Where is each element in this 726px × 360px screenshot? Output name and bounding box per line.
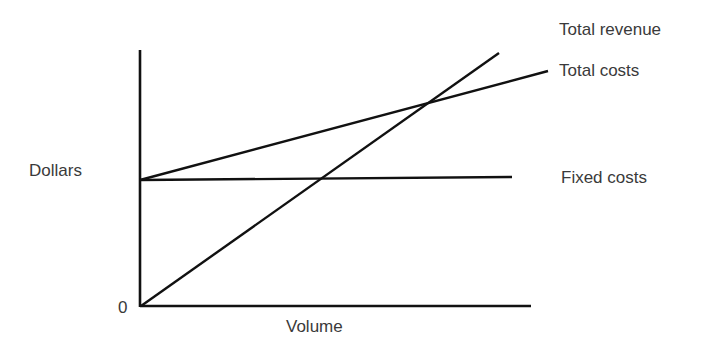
origin-label: 0 <box>118 299 127 316</box>
y-axis-label: Dollars <box>29 162 82 179</box>
total-costs-label: Total costs <box>559 62 639 79</box>
fixed-costs-label: Fixed costs <box>561 169 647 186</box>
fixed-costs-line <box>140 177 512 180</box>
total-revenue-label: Total revenue <box>559 21 661 38</box>
x-axis-label: Volume <box>286 318 343 335</box>
